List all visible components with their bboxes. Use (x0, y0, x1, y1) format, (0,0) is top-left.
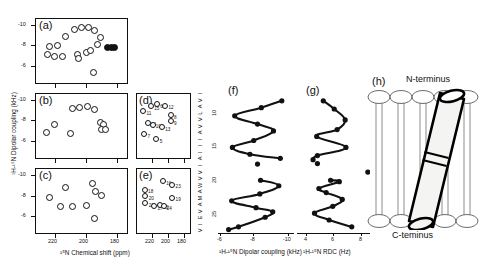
wave-data-point (278, 156, 283, 161)
panel-g-rdc-wave (297, 96, 370, 233)
wave-data-point (257, 191, 262, 196)
panel-b-ytick-0: -10 (18, 97, 26, 102)
wave-data-point (251, 138, 256, 143)
peak-marker (150, 122, 156, 128)
wave-data-point (226, 227, 231, 232)
wave-data-point (343, 145, 348, 150)
wave-data-point (321, 98, 326, 103)
peak-marker (43, 129, 50, 136)
residue-number-tick: 20 (211, 177, 217, 183)
wave-data-point (315, 153, 320, 158)
panel-e-xtick-1: 200 (161, 239, 170, 244)
panel-a-ytick-0: -10 (18, 22, 26, 27)
wave-data-point (310, 157, 315, 162)
wave-data-point (263, 215, 268, 220)
wave-data-point (328, 178, 333, 183)
panel-b-label: (b) (39, 94, 52, 106)
peak-number-label: 23 (176, 185, 181, 190)
peak-marker (44, 51, 51, 58)
wave-data-point (335, 127, 340, 132)
wave-data-point (314, 134, 319, 139)
peak-marker (51, 121, 58, 128)
peak-marker (71, 26, 78, 33)
peak-number-label: 9 (174, 122, 177, 127)
peak-number-label: 18 (148, 190, 153, 195)
panel-f-xtick-2: -10 (283, 237, 291, 242)
wave-data-point (236, 224, 241, 229)
residue-sequence-column: IVALVVAIIIAIVVWAMAVEIV (196, 90, 205, 234)
wave-data-point (253, 205, 258, 210)
peak-number-label: 7 (148, 135, 151, 140)
dipolar-wave-curve-1 (313, 101, 346, 160)
peak-marker (69, 105, 76, 112)
wave-data-point (270, 209, 275, 214)
panel-g-label: (g) (306, 84, 319, 96)
peak-marker (46, 194, 53, 201)
residue-number-tick: 25 (211, 211, 217, 217)
panel-e-xtick-0: 220 (145, 239, 154, 244)
peak-marker (78, 24, 85, 31)
sequence-letter: V (197, 226, 204, 235)
peak-number-label: 24 (167, 207, 172, 212)
wave-data-point (279, 98, 284, 103)
wave-data-point (247, 152, 252, 157)
peak-marker (142, 187, 148, 193)
wave-data-point (324, 190, 329, 195)
peak-marker (69, 203, 76, 210)
panel-c-label: (c) (39, 169, 52, 181)
membrane-bilayer-diagram (366, 88, 487, 230)
wave-svg (218, 96, 294, 233)
peak-marker (162, 103, 168, 109)
peak-marker (161, 203, 167, 209)
wave-data-point (230, 145, 235, 150)
wave-data-point (276, 183, 281, 188)
panel-c-xtick-2: 180 (110, 239, 119, 244)
peak-marker (102, 126, 109, 133)
isolated-data-point (315, 161, 320, 166)
x-axis-label-rdc: ¹H-¹⁵N RDC (Hz) (303, 249, 351, 255)
wave-data-point (232, 113, 237, 118)
panel-c-ytick-1: -8 (21, 193, 26, 198)
wave-data-point (340, 197, 345, 202)
peak-number-label: 12 (168, 106, 173, 111)
panel-f-axis-line (218, 233, 294, 234)
peak-number-label: 5 (160, 140, 163, 145)
wave-data-point (332, 106, 337, 111)
panel-f-label: (f) (228, 84, 238, 96)
peak-marker (91, 106, 98, 113)
panel-c-ytick-0: -10 (18, 172, 26, 177)
peak-marker (51, 53, 58, 60)
peak-marker (57, 203, 64, 210)
panel-h-label: (h) (372, 75, 385, 87)
residue-number-tick: 10 (211, 110, 217, 116)
x-axis-label-dipolar-coupling: ¹H-¹⁵N Dipolar coupling (kHz) (219, 249, 302, 255)
panel-f-xtick-0: -6 (217, 237, 222, 242)
panel-g-xtick-1: 6 (331, 237, 334, 242)
peak-marker (91, 27, 98, 34)
panel-e-xtick-2: 180 (177, 239, 186, 244)
peak-marker (91, 215, 98, 222)
panel-a-label: (a) (39, 19, 52, 31)
panel-a-ytick-1: -8 (21, 42, 26, 47)
panel-f-dipolar-wave (218, 96, 294, 233)
wave-svg (297, 96, 370, 233)
peak-marker (90, 69, 97, 76)
wave-data-point (259, 105, 264, 110)
peak-marker (148, 103, 154, 109)
y-axis-label-chemshift-dipolar: ¹H-¹⁵N Dipolar coupling (kHz) (10, 92, 17, 175)
peak-marker (84, 103, 91, 110)
peak-number-label: 20 (149, 197, 154, 202)
tilted-helix-cylinder (408, 88, 466, 230)
dipolar-wave-curve-2 (229, 180, 279, 229)
wave-data-point (258, 178, 263, 183)
panel-b-ytick-2: -6 (21, 138, 26, 143)
isolated-data-point (255, 161, 260, 166)
peak-marker (94, 41, 101, 48)
peak-marker (169, 195, 175, 201)
wave-data-point (349, 224, 354, 229)
panel-c-xtick-1: 200 (79, 239, 88, 244)
peak-number-label: 13 (165, 128, 170, 133)
panel-f-xtick-1: -8 (250, 237, 255, 242)
x-axis-label-chemical-shift: ¹⁵N Chemical shift (ppm) (60, 250, 130, 256)
wave-data-point (330, 204, 335, 209)
